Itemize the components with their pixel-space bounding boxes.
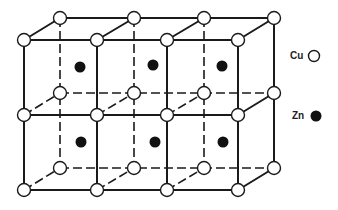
cu-atom-icon bbox=[18, 34, 31, 47]
zn-atom-icon bbox=[76, 137, 87, 148]
cu-atom-icon bbox=[54, 87, 67, 100]
cu-atom-icon bbox=[268, 87, 281, 100]
cu-atom-icon bbox=[128, 12, 141, 25]
cu-atom-icon bbox=[91, 184, 104, 197]
zn-atom-icon bbox=[148, 60, 159, 71]
cu-atom-icon bbox=[198, 87, 211, 100]
cu-atom-icon bbox=[198, 162, 211, 175]
legend-zn-icon bbox=[311, 111, 322, 122]
cu-atom-icon bbox=[91, 109, 104, 122]
cu-atom-icon bbox=[268, 162, 281, 175]
cu-atom-icon bbox=[18, 109, 31, 122]
cu-atom-icon bbox=[91, 34, 104, 47]
cu-atom-icon bbox=[54, 12, 67, 25]
cu-atom-icon bbox=[198, 12, 211, 25]
zn-atom-icon bbox=[75, 62, 86, 73]
cu-atom-icon bbox=[54, 162, 67, 175]
cu-atom-icon bbox=[232, 34, 245, 47]
zn-atom-icon bbox=[150, 137, 161, 148]
cu-atom-icon bbox=[128, 87, 141, 100]
cu-atom-icon bbox=[18, 184, 31, 197]
cu-atom-icon bbox=[232, 184, 245, 197]
legend-cu-label: Cu bbox=[290, 50, 303, 61]
crystal-lattice-diagram bbox=[0, 0, 338, 210]
cu-atom-icon bbox=[161, 184, 174, 197]
cu-atom-icon bbox=[161, 34, 174, 47]
legend-symbols bbox=[309, 51, 322, 122]
zn-atom-icon bbox=[218, 137, 229, 148]
cu-atom-icon bbox=[268, 12, 281, 25]
legend-cu-icon bbox=[309, 51, 320, 62]
cu-atom-icon bbox=[128, 162, 141, 175]
legend-zn-label: Zn bbox=[292, 110, 304, 121]
cu-atom-icon bbox=[161, 109, 174, 122]
zn-atom-icon bbox=[217, 61, 228, 72]
cu-atom-icon bbox=[232, 109, 245, 122]
